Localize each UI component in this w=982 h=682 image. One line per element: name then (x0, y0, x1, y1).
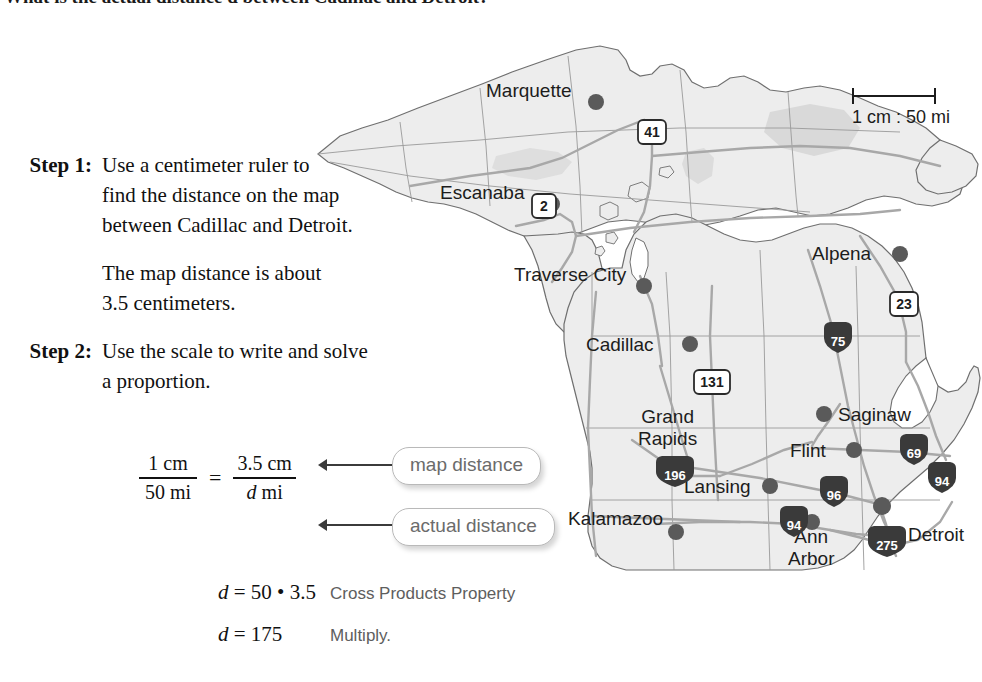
equals-sign: = (209, 465, 221, 491)
svg-text:41: 41 (644, 124, 660, 140)
svg-text:75: 75 (831, 334, 845, 349)
route-shield-us-41: 41 (638, 120, 666, 144)
derivation-equation-2: d = 175 (0, 622, 330, 647)
derivation-note-2: Multiply. (330, 626, 391, 646)
fraction-left-numerator: 1 cm (144, 452, 191, 477)
unit-mi: mi (257, 481, 283, 503)
scale-bar-tick-left (852, 88, 854, 104)
route-shield-i-275: 275 (868, 526, 906, 557)
variable-d: d (247, 481, 257, 503)
svg-text:275: 275 (876, 538, 898, 553)
svg-text:131: 131 (700, 374, 724, 390)
route-shield-i-94-west: 94 (780, 506, 808, 537)
equation-rest: = 175 (229, 622, 283, 646)
route-shield-i-96: 96 (820, 476, 848, 507)
svg-text:196: 196 (664, 468, 686, 483)
route-shield-us-131: 131 (694, 370, 730, 394)
scale-bar-label: 1 cm : 50 mi (852, 107, 972, 128)
fraction-right-numerator: 3.5 cm (233, 452, 295, 477)
route-shield-i-196: 196 (656, 456, 694, 487)
route-shield-i-69: 69 (900, 434, 928, 465)
step-2-label: Step 2: (0, 336, 102, 366)
derivation-row: d = 175 Multiply. (0, 622, 600, 664)
route-shield-i-94-east: 94 (928, 462, 956, 493)
route-shield-i-75: 75 (824, 322, 852, 353)
variable-d: d (218, 580, 229, 604)
fraction-left-denominator: 50 mi (141, 479, 195, 504)
map-scale-bar: 1 cm : 50 mi (852, 88, 972, 128)
proportion-equation: 1 cm 50 mi = 3.5 cm d mi (139, 452, 296, 504)
scale-bar-line (852, 95, 936, 97)
svg-text:96: 96 (827, 488, 841, 503)
fraction-right: 3.5 cm d mi (233, 452, 295, 504)
svg-text:69: 69 (907, 446, 921, 461)
variable-d: d (218, 622, 229, 646)
svg-text:94: 94 (935, 474, 950, 489)
svg-text:94: 94 (787, 518, 802, 533)
heading-clipped: What is the actual distance d between Ca… (0, 0, 982, 10)
route-shield-us-23: 23 (890, 292, 918, 316)
fraction-left: 1 cm 50 mi (139, 452, 197, 504)
derivation-equation-1: d = 50 • 3.5 (0, 580, 330, 605)
svg-text:2: 2 (540, 198, 548, 214)
svg-text:23: 23 (896, 296, 912, 312)
page-title: What is the actual distance d between Ca… (4, 0, 489, 8)
route-shield-us-2: 2 (532, 194, 556, 218)
scale-bar-tick-right (934, 88, 936, 104)
textbook-example-page: What is the actual distance d between Ca… (0, 0, 982, 682)
step-1-label: Step 1: (0, 150, 102, 180)
fraction-right-denominator: d mi (243, 479, 287, 504)
scale-bar-rule (852, 88, 972, 104)
